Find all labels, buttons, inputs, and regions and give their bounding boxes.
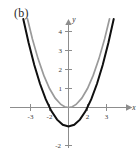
figure-panel: (b) -3 -2 2 3 -2 1 2 3 bbox=[0, 0, 140, 155]
x-axis-label: x bbox=[131, 103, 136, 112]
y-ticklabel-3: 3 bbox=[59, 47, 63, 55]
parabola-plot: -3 -2 2 3 -2 1 2 3 4 x y bbox=[0, 0, 140, 155]
y-ticklabel--2: -2 bbox=[55, 142, 61, 150]
panel-label: (b) bbox=[14, 7, 29, 19]
x-ticklabel-3: 3 bbox=[105, 113, 109, 121]
y-axis-arrowhead bbox=[65, 19, 71, 25]
x-ticklabel--2: -2 bbox=[47, 113, 53, 121]
y-ticklabel-2: 2 bbox=[59, 66, 63, 74]
x-ticklabel-2: 2 bbox=[86, 113, 90, 121]
y-axis-label: y bbox=[71, 15, 76, 24]
y-ticklabel-1: 1 bbox=[59, 85, 63, 93]
y-ticklabel-4: 4 bbox=[59, 28, 63, 36]
x-ticklabel--3: -3 bbox=[28, 113, 34, 121]
